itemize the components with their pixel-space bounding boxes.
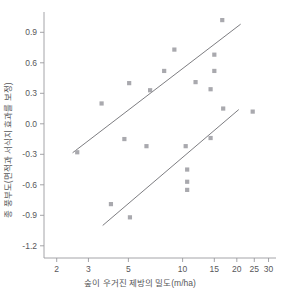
data-point-lower-group (221, 106, 225, 110)
data-point-lower-group (185, 180, 189, 184)
data-point-lower-group (109, 202, 113, 206)
x-tick-label: 30 (264, 264, 274, 274)
x-tick-label: 20 (232, 264, 242, 274)
data-point-lower-group (208, 136, 212, 140)
data-point-upper-group (144, 144, 148, 148)
x-axis: 2351015202530 (44, 258, 276, 274)
data-point-lower-group (185, 188, 189, 192)
y-tick-label: 0.0 (25, 119, 37, 129)
data-point-upper-group (75, 150, 79, 154)
y-tick-label: -0.3 (22, 149, 37, 159)
y-tick-label: 0.6 (25, 58, 37, 68)
y-tick-label: -0.6 (22, 180, 37, 190)
data-point-upper-group (127, 81, 131, 85)
y-axis: 0.90.60.30.0-0.3-0.6-0.9-1.2 (22, 12, 44, 258)
x-tick-label: 10 (178, 264, 188, 274)
x-tick-label: 25 (250, 264, 260, 274)
data-point-upper-group (208, 87, 212, 91)
y-axis-title: 종 풍부도(면적과 서식지 효과를 보정) (3, 82, 13, 217)
x-axis-title: 숲이 우거진 제방의 밀도(m/ha) (84, 278, 196, 288)
y-tick-label: -1.2 (22, 241, 37, 251)
chart-canvas: 0.90.60.30.0-0.3-0.6-0.9-1.2 23510152025… (0, 0, 281, 292)
data-point-lower-group (251, 110, 255, 114)
data-point-lower-group (185, 167, 189, 171)
data-point-lower-group (184, 144, 188, 148)
scatter-chart: 0.90.60.30.0-0.3-0.6-0.9-1.2 23510152025… (0, 0, 281, 292)
data-point-upper-group (99, 101, 103, 105)
y-tick-label: -0.9 (22, 210, 37, 220)
x-tick-label: 5 (126, 264, 131, 274)
lower-trend (103, 110, 239, 226)
data-point-upper-group (212, 69, 216, 73)
data-point-upper-group (220, 18, 224, 22)
data-point-lower-group (128, 215, 132, 219)
data-point-upper-group (122, 137, 126, 141)
data-point-upper-group (212, 53, 216, 57)
data-point-upper-group (172, 47, 176, 51)
y-tick-label: 0.9 (25, 27, 37, 37)
data-point-upper-group (148, 88, 152, 92)
upper-trend (73, 24, 241, 153)
x-tick-label: 2 (54, 264, 59, 274)
y-tick-label: 0.3 (25, 88, 37, 98)
x-tick-label: 15 (210, 264, 220, 274)
x-tick-label: 3 (86, 264, 91, 274)
data-point-upper-group (193, 80, 197, 84)
data-point-upper-group (162, 69, 166, 73)
